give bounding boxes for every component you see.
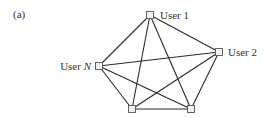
node-bottom_left: [129, 106, 136, 113]
node-bottom_right: [188, 106, 195, 113]
edge-userN-bottom_left: [99, 66, 132, 109]
panel-label: (a): [13, 8, 26, 21]
node-label-user2: User 2: [228, 46, 257, 58]
node-label-userN-var: N: [83, 60, 92, 72]
edge-user1-bottom_right: [150, 15, 191, 109]
node-user2: [216, 49, 223, 56]
node-label-userN-prefix: User: [60, 60, 84, 72]
node-user1: [147, 12, 154, 19]
edge-user1-userN: [99, 15, 150, 66]
edge-userN-bottom_right: [99, 66, 191, 109]
node-label-userN: User N: [60, 60, 92, 72]
network-diagram: (a) User 1 User 2 User N: [0, 0, 275, 118]
node-label-user1: User 1: [160, 9, 189, 21]
edges-group: [99, 15, 219, 109]
node-userN: [96, 63, 103, 70]
